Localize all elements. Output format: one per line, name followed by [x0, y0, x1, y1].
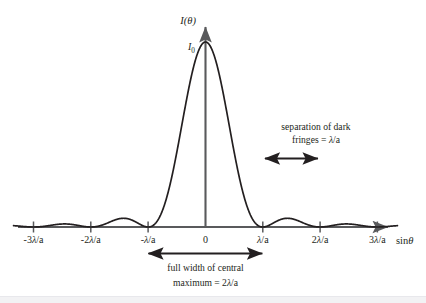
diffraction-plot-svg: I(θ) sinθ I0 -3λ/a -2λ/a -λ/a 0 λ/a [0, 0, 426, 303]
x-tick-labels: -3λ/a -2λ/a -λ/a 0 λ/a 2λ/a 3λ/a [24, 234, 387, 245]
separation-text-line2: fringes = λ/a [292, 134, 341, 145]
separation-annotation: separation of dark fringes = λ/a [265, 121, 351, 159]
central-width-annotation: full width of central maximum = 2λ/a [149, 254, 263, 289]
tick-label-neg1: -λ/a [141, 234, 156, 245]
tick-label-pos2: 2λ/a [312, 234, 329, 245]
peak-intensity-label: I0 [187, 41, 195, 55]
central-width-text-line2: maximum = 2λ/a [173, 277, 239, 288]
separation-text-line1: separation of dark [281, 121, 350, 132]
tick-label-neg3: -3λ/a [24, 234, 44, 245]
bottom-edge-band [0, 296, 426, 303]
tick-label-pos1: λ/a [256, 234, 269, 245]
tick-label-zero: 0 [203, 234, 208, 245]
x-axis-label: sinθ [396, 235, 413, 246]
tick-label-neg2: -2λ/a [81, 234, 101, 245]
central-width-text-line1: full width of central [167, 262, 244, 273]
diffraction-figure: I(θ) sinθ I0 -3λ/a -2λ/a -λ/a 0 λ/a [0, 0, 426, 303]
y-axis-label: I(θ) [179, 15, 196, 27]
tick-label-pos3: 3λ/a [369, 234, 386, 245]
